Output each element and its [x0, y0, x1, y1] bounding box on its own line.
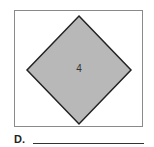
answer-blank-line[interactable]: [33, 143, 144, 144]
answer-option-letter: D.: [14, 133, 25, 146]
shape-side-label: 4: [72, 62, 86, 76]
